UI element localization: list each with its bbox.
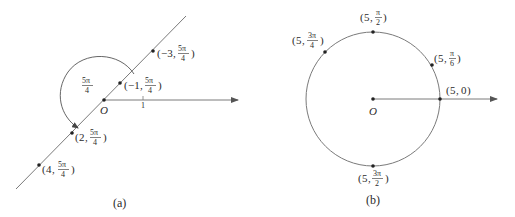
svg-text:): )	[457, 52, 461, 65]
panel-b: O ( 5 , 0 ) ( 5 , π 6 ) ( 5 , π	[292, 8, 497, 207]
origin-point-b	[371, 97, 375, 101]
svg-text:2: 2	[376, 18, 380, 27]
origin-label-a: O	[100, 104, 108, 116]
point-neg3: ( −3 , 5π 4 )	[151, 44, 195, 63]
point-5-3pi-4: ( 5 , 3π 4 )	[292, 31, 327, 54]
origin-point-a	[102, 98, 106, 102]
svg-text:4: 4	[148, 86, 152, 95]
svg-text:2: 2	[79, 131, 85, 143]
polar-coordinates-figure: 1 5π 4 O ( −3 , 5π 4 ) ( −1 , 5π	[0, 0, 515, 217]
svg-text:π: π	[450, 49, 454, 58]
svg-text:): )	[385, 172, 389, 185]
svg-text:−1: −1	[128, 79, 140, 91]
svg-text:): )	[158, 79, 162, 92]
point-4: ( 4 , 5π 4 )	[37, 160, 75, 179]
caption-a: (a)	[113, 196, 126, 210]
svg-text:5π: 5π	[58, 160, 66, 169]
svg-text:): )	[71, 163, 75, 176]
svg-text:,: ,	[85, 131, 88, 143]
svg-text:6: 6	[450, 59, 454, 68]
origin-label-b: O	[369, 105, 377, 117]
svg-text:5π: 5π	[82, 76, 90, 85]
svg-text:5π: 5π	[90, 128, 98, 137]
svg-text:π: π	[376, 8, 380, 17]
point-2: ( 2 , 5π 4 )	[70, 128, 107, 147]
svg-text:3π: 3π	[373, 169, 381, 178]
svg-text:,: ,	[370, 11, 373, 23]
svg-text:): )	[467, 84, 471, 97]
svg-text:2: 2	[375, 179, 379, 188]
panel-a: 1 5π 4 O ( −3 , 5π 4 ) ( −1 , 5π	[16, 16, 238, 210]
point-neg1: ( −1 , 5π 4 )	[118, 76, 162, 95]
svg-text:,: ,	[173, 47, 176, 59]
svg-text:,: ,	[140, 79, 143, 91]
svg-text:3π: 3π	[308, 31, 316, 40]
svg-text:−3: −3	[161, 47, 173, 59]
svg-text:): )	[320, 34, 324, 47]
point-5-0: ( 5 , 0 )	[438, 84, 471, 101]
svg-text:5π: 5π	[145, 76, 153, 85]
point-5-3pi-2: ( 5 , 3π 2 )	[358, 164, 389, 188]
svg-text:5π: 5π	[178, 44, 186, 53]
svg-text:,: ,	[456, 84, 459, 96]
point-5-pi-2: ( 5 , π 2 )	[360, 8, 387, 34]
angle-arc	[60, 56, 134, 128]
svg-text:): )	[191, 47, 195, 60]
angle-label: 5π 4	[82, 76, 93, 95]
svg-text:4: 4	[310, 41, 314, 50]
svg-text:,: ,	[302, 34, 305, 46]
tick-label: 1	[141, 101, 145, 110]
caption-b: (b)	[366, 193, 380, 207]
svg-text:4: 4	[181, 54, 185, 63]
svg-text:,: ,	[52, 163, 55, 175]
svg-text:4: 4	[85, 86, 89, 95]
point-5-pi-6: ( 5 , π 6 )	[430, 49, 461, 68]
svg-text:4: 4	[93, 138, 97, 147]
svg-text:): )	[103, 131, 107, 144]
svg-text:,: ,	[368, 172, 371, 184]
svg-text:): )	[383, 11, 387, 24]
svg-text:,: ,	[444, 52, 447, 64]
svg-text:4: 4	[61, 170, 65, 179]
